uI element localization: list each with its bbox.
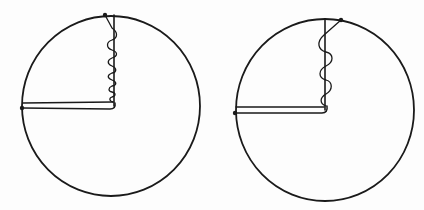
figure-canvas bbox=[0, 0, 424, 210]
left-side-dot bbox=[20, 106, 24, 110]
right-spring-coil bbox=[319, 20, 341, 106]
right-horizontal-radius bbox=[236, 106, 327, 113]
left-top-dot bbox=[103, 13, 107, 17]
left-panel bbox=[20, 13, 200, 196]
left-circle bbox=[22, 16, 200, 196]
right-panel bbox=[233, 18, 414, 201]
figure-svg bbox=[0, 0, 424, 210]
left-horizontal-radius bbox=[23, 102, 115, 109]
right-side-dot bbox=[233, 111, 237, 115]
right-top-dot bbox=[339, 18, 343, 22]
